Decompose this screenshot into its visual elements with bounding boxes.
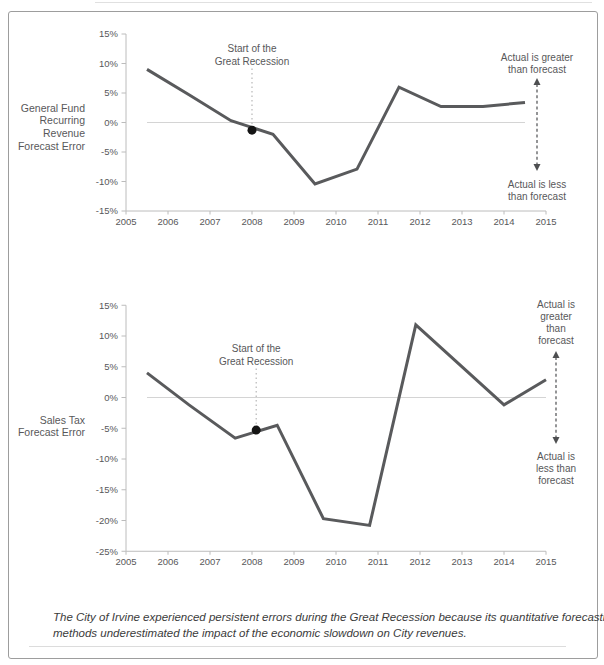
x-tick-label: 2013 xyxy=(451,216,472,227)
note-actual-less: Actual is less xyxy=(508,179,566,190)
x-tick-label: 2014 xyxy=(493,216,514,227)
note-actual-less: forecast xyxy=(538,475,574,486)
y-tick-label: -10% xyxy=(96,176,119,187)
x-tick-label: 2009 xyxy=(283,556,304,567)
x-tick-label: 2014 xyxy=(493,556,514,567)
recession-dot xyxy=(248,126,257,135)
arrow-down-icon xyxy=(553,437,560,444)
x-tick-label: 2006 xyxy=(157,216,178,227)
x-tick-label: 2006 xyxy=(157,556,178,567)
x-tick-label: 2005 xyxy=(115,216,136,227)
x-tick-label: 2012 xyxy=(409,216,430,227)
y-tick-label: 10% xyxy=(99,58,119,69)
note-actual-less: than forecast xyxy=(508,191,566,202)
note-actual-greater: Actual is greater xyxy=(501,52,574,63)
recession-label: Start of the xyxy=(232,343,281,354)
x-tick-label: 2010 xyxy=(325,556,346,567)
chart-title-line: Recurring xyxy=(39,114,85,126)
x-tick-label: 2012 xyxy=(409,556,430,567)
x-tick-label: 2011 xyxy=(368,216,388,227)
forecast-error-line xyxy=(147,325,546,526)
note-actual-less: less than xyxy=(536,463,576,474)
y-tick-label: 15% xyxy=(99,28,119,39)
x-tick-label: 2010 xyxy=(325,216,346,227)
arrow-up-icon xyxy=(534,78,541,85)
chart-title-line: Forecast Error xyxy=(18,426,86,438)
x-tick-label: 2011 xyxy=(368,556,388,567)
chart-title-line: Revenue xyxy=(43,127,85,139)
x-tick-label: 2015 xyxy=(535,556,556,567)
note-actual-greater: forecast xyxy=(538,335,574,346)
x-tick-label: 2015 xyxy=(535,216,556,227)
y-tick-label: -10% xyxy=(96,453,119,464)
note-actual-greater: than forecast xyxy=(508,64,566,75)
recession-label: Start of the xyxy=(228,43,277,54)
y-tick-label: -20% xyxy=(96,515,119,526)
caption-divider xyxy=(29,646,566,647)
y-tick-label: 15% xyxy=(99,300,119,311)
y-tick-label: -15% xyxy=(96,484,119,495)
note-actual-greater: Actual is xyxy=(537,299,575,310)
x-tick-label: 2005 xyxy=(115,556,136,567)
chart-title-line: Forecast Error xyxy=(18,140,86,152)
x-tick-label: 2007 xyxy=(199,216,220,227)
x-tick-label: 2008 xyxy=(241,216,262,227)
y-tick-label: -5% xyxy=(101,423,118,434)
recession-label: Great Recession xyxy=(215,56,289,67)
y-tick-label: 10% xyxy=(99,330,119,341)
y-tick-label: 0% xyxy=(104,392,118,403)
chart-title-line: General Fund xyxy=(21,102,85,114)
x-tick-label: 2007 xyxy=(199,556,220,567)
x-tick-label: 2013 xyxy=(451,556,472,567)
recession-dot xyxy=(252,426,261,435)
arrow-up-icon xyxy=(553,351,560,358)
chart-title-line: Sales Tax xyxy=(40,414,86,426)
note-actual-greater: greater xyxy=(540,311,572,322)
forecast-error-charts: 15%10%5%0%-5%-10%-15%2005200620072008200… xyxy=(0,0,604,665)
x-tick-label: 2008 xyxy=(241,556,262,567)
note-actual-less: Actual is xyxy=(537,451,575,462)
note-actual-greater: than xyxy=(546,323,565,334)
x-tick-label: 2009 xyxy=(283,216,304,227)
y-tick-label: -5% xyxy=(101,146,118,157)
arrow-down-icon xyxy=(534,164,541,171)
y-tick-label: 5% xyxy=(104,361,118,372)
figure-caption: The City of Irvine experienced persisten… xyxy=(53,609,583,641)
y-tick-label: 5% xyxy=(104,87,118,98)
forecast-error-line xyxy=(147,69,525,183)
y-tick-label: 0% xyxy=(104,117,118,128)
recession-label: Great Recession xyxy=(219,356,293,367)
